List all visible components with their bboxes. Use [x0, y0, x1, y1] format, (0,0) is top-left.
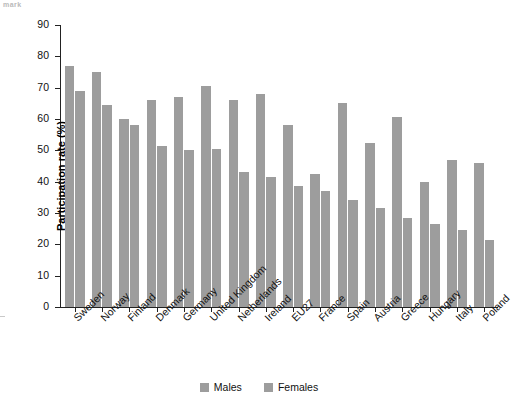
bar-males: [119, 119, 129, 307]
y-tick: [55, 25, 61, 26]
legend-item-males: Males: [200, 381, 242, 393]
legend-swatch-females: [264, 383, 273, 392]
bar-males: [338, 103, 348, 307]
bar-males: [365, 143, 375, 308]
corner-watermark: mark: [3, 1, 22, 8]
y-tick: [55, 119, 61, 120]
y-tick-label: 20: [19, 238, 49, 248]
bar-females: [184, 150, 194, 307]
y-tick-label: 50: [19, 144, 49, 154]
bar-males: [92, 72, 102, 307]
legend-swatch-males: [200, 383, 209, 392]
y-tick-label: 70: [19, 82, 49, 92]
y-tick-label: 10: [19, 270, 49, 280]
y-tick: [55, 213, 61, 214]
chart-root: mark Participation rate (%) 010203040506…: [0, 0, 518, 406]
y-tick-label: 40: [19, 176, 49, 186]
legend-label-females: Females: [278, 381, 318, 393]
bar-males: [474, 163, 484, 307]
page-edge-mark: [0, 316, 5, 317]
bar-males: [229, 100, 239, 307]
bar-males: [447, 160, 457, 307]
bar-females: [212, 149, 222, 307]
y-tick: [55, 88, 61, 89]
bar-males: [201, 86, 211, 307]
bar-males: [147, 100, 157, 307]
legend-item-females: Females: [264, 381, 318, 393]
plot-area: Participation rate (%) 01020304050607080…: [61, 25, 498, 307]
y-tick: [55, 307, 61, 308]
legend-label-males: Males: [214, 381, 242, 393]
y-tick-label: 0: [19, 301, 49, 311]
bar-females: [485, 240, 495, 307]
bar-females: [102, 105, 112, 307]
bar-males: [420, 182, 430, 307]
bar-females: [157, 146, 167, 307]
bar-males: [310, 174, 320, 307]
bar-males: [392, 117, 402, 307]
bar-females: [321, 191, 331, 307]
bar-females: [294, 186, 304, 307]
y-tick-label: 90: [19, 19, 49, 29]
bar-males: [283, 125, 293, 307]
bar-females: [430, 224, 440, 307]
y-tick-label: 60: [19, 113, 49, 123]
y-tick: [55, 182, 61, 183]
chart-legend: Males Females: [0, 381, 518, 393]
y-tick: [55, 276, 61, 277]
bar-females: [75, 91, 85, 307]
bar-females: [376, 208, 386, 307]
bar-males: [65, 66, 75, 307]
bar-males: [174, 97, 184, 307]
bar-females: [130, 125, 140, 307]
y-tick-label: 80: [19, 50, 49, 60]
y-tick: [55, 56, 61, 57]
bar-females: [403, 218, 413, 307]
y-tick: [55, 244, 61, 245]
bar-females: [348, 200, 358, 307]
y-tick-label: 30: [19, 207, 49, 217]
y-tick: [55, 150, 61, 151]
